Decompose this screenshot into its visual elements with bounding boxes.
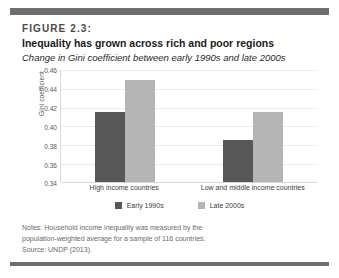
- legend-swatch-early-1990s: [115, 202, 122, 209]
- bar-group-high-income: [61, 70, 189, 182]
- y-tick-0.38: 0.38: [44, 142, 57, 149]
- figure-bottom-band: [10, 262, 329, 266]
- y-tick-0.46: 0.46: [44, 67, 57, 74]
- legend-label-early-1990s: Early 1990s: [127, 202, 164, 209]
- figure-top-band: [10, 8, 329, 15]
- legend-item-early-1990s[interactable]: Early 1990s: [115, 202, 164, 209]
- figure-subtitle: Change in Gini coefficient between early…: [22, 52, 317, 64]
- legend-label-late-2000s: Late 2000s: [210, 202, 245, 209]
- y-tick-0.44: 0.44: [44, 86, 57, 93]
- bar-chart: Gini coefficient 0.460.440.420.400.380.3…: [22, 70, 317, 182]
- y-tick-0.36: 0.36: [44, 161, 57, 168]
- y-tick-0.40: 0.40: [44, 123, 57, 130]
- x-label-high-income: High income countries: [60, 184, 189, 191]
- x-axis-labels: High income countries Low and middle inc…: [60, 184, 317, 191]
- y-tick-0.34: 0.34: [44, 180, 57, 187]
- notes-line-2: population-weighted average for a sample…: [22, 234, 317, 245]
- bar-group-low-middle-income: [189, 70, 317, 182]
- figure-title: Inequality has grown across rich and poo…: [22, 37, 317, 50]
- bar-groups: [61, 70, 317, 182]
- figure-number: FIGURE 2.3:: [22, 23, 317, 34]
- legend-item-late-2000s[interactable]: Late 2000s: [198, 202, 245, 209]
- notes-source: Source: UNDP (2013).: [22, 245, 317, 256]
- bar-low-middle-income-early-1990s[interactable]: [223, 140, 253, 182]
- plot-area: 0.460.440.420.400.380.360.34: [60, 70, 317, 182]
- bar-low-middle-income-late-2000s[interactable]: [253, 112, 283, 182]
- notes-line-1: Notes: Household income inequality was m…: [22, 223, 317, 234]
- bar-high-income-late-2000s[interactable]: [125, 80, 155, 183]
- figure-card: FIGURE 2.3: Inequality has grown across …: [10, 8, 329, 266]
- legend-swatch-late-2000s: [198, 202, 205, 209]
- gridline-0.34: 0.34: [61, 182, 317, 183]
- x-label-low-middle-income: Low and middle income countries: [189, 184, 318, 191]
- figure-notes: Notes: Household income inequality was m…: [22, 223, 317, 256]
- figure-content: FIGURE 2.3: Inequality has grown across …: [10, 15, 329, 262]
- chart-legend: Early 1990s Late 2000s: [22, 202, 317, 209]
- bar-high-income-early-1990s[interactable]: [95, 112, 125, 182]
- y-tick-0.42: 0.42: [44, 105, 57, 112]
